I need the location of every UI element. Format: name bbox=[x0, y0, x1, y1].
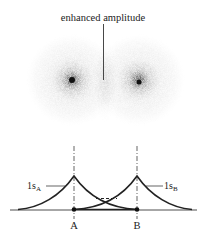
enhanced-amplitude-label: enhanced amplitude bbox=[61, 12, 146, 23]
nucleus-label-a: A bbox=[70, 220, 78, 231]
nucleus-a-core bbox=[69, 77, 75, 83]
label-1sA: 1sA bbox=[27, 180, 41, 193]
orbital-overlap-diagram: enhanced amplitude 1sA bbox=[0, 0, 207, 239]
overlap-region bbox=[93, 42, 117, 122]
nucleus-dot-a bbox=[72, 207, 77, 212]
label-1sB-prefix: 1s bbox=[164, 180, 173, 191]
nucleus-b-core bbox=[137, 80, 142, 85]
nucleus-dot-b bbox=[135, 207, 140, 212]
electron-clouds bbox=[26, 34, 185, 126]
nucleus-label-b: B bbox=[133, 220, 140, 231]
label-1sB-sub: B bbox=[173, 185, 178, 193]
label-1sA-sub: A bbox=[36, 185, 41, 193]
label-1sA-prefix: 1s bbox=[27, 180, 36, 191]
diagram-canvas: enhanced amplitude 1sA bbox=[0, 0, 207, 239]
label-1sB: 1sB bbox=[164, 180, 178, 193]
